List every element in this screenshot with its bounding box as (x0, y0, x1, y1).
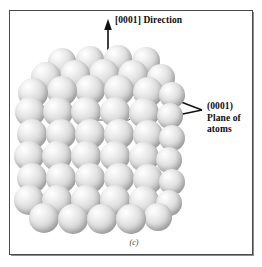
plane-label: (0001) Plane of atoms (207, 101, 255, 136)
atom-sphere (87, 204, 117, 234)
plane-label-line1: (0001) (207, 101, 255, 113)
direction-arrow-head (104, 19, 112, 30)
direction-label: [0001] Direction (115, 15, 182, 25)
figure-caption: (c) (124, 238, 144, 247)
figure-container: [0001] Direction (0001) Plane of atoms (… (0, 0, 262, 267)
plane-label-line3: atoms (207, 124, 255, 136)
plane-label-line2: Plane of (207, 113, 255, 125)
atom-sphere (144, 203, 172, 231)
atom-sphere (116, 204, 146, 234)
atom-sphere (29, 203, 59, 233)
atom-sphere (58, 204, 88, 234)
